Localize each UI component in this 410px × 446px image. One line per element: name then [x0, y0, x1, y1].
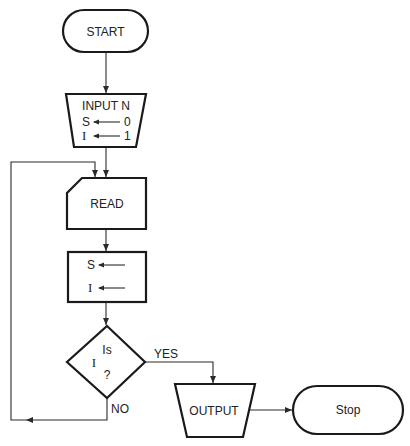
output-label: OUTPUT	[189, 404, 239, 418]
stop-label: Stop	[336, 403, 361, 417]
output-node[interactable]: OUTPUT	[175, 384, 255, 437]
input-val-s: 0	[124, 115, 131, 129]
start-label: START	[86, 25, 125, 39]
input-node[interactable]: INPUT N S 0 I 1	[66, 94, 146, 147]
assign-node[interactable]: S I	[68, 252, 146, 302]
flowchart: START INPUT N S 0 I 1 READ S I Is I ? YE…	[0, 0, 410, 446]
no-label: NO	[111, 402, 129, 416]
decision-line2: I	[92, 355, 96, 370]
input-var-s: S	[82, 115, 90, 129]
read-label: READ	[90, 197, 124, 211]
assign-var-s: S	[87, 258, 95, 272]
decision-line1: Is	[102, 343, 111, 357]
assign-var-i: I	[88, 280, 92, 295]
decision-node[interactable]: Is I ?	[67, 326, 145, 398]
connector-yes-output	[145, 362, 213, 383]
input-val-i: 1	[124, 129, 131, 143]
read-node[interactable]: READ	[67, 178, 146, 229]
yes-label: YES	[154, 347, 178, 361]
stop-terminal[interactable]: Stop	[293, 386, 403, 434]
loop-arrow-icon	[26, 417, 33, 423]
input-var-i: I	[82, 128, 86, 143]
start-terminal[interactable]: START	[63, 10, 148, 52]
input-title: INPUT N	[82, 99, 130, 113]
decision-line3: ?	[104, 368, 111, 382]
